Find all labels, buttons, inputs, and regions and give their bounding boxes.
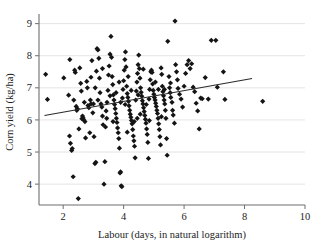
x-tick-label: 6 (181, 211, 186, 222)
y-tick-label: 7 (27, 82, 32, 93)
y-tick-label: 6 (27, 115, 32, 126)
y-tick-label: 4 (27, 179, 33, 190)
chart-figure: 246810 456789 Labour (days, in natural l… (0, 0, 323, 250)
y-tick-label: 8 (27, 50, 32, 61)
y-tick-label: 5 (27, 147, 32, 158)
x-tick-label: 8 (242, 211, 247, 222)
scatter-plot: 246810 456789 Labour (days, in natural l… (0, 0, 323, 250)
y-axis-title: Corn yield (kg/ha) (4, 73, 16, 151)
y-tick-label: 9 (27, 18, 32, 29)
x-tick-label: 2 (61, 211, 66, 222)
x-axis-title: Labour (days, in natural logarithm) (98, 229, 246, 241)
x-tick-label: 10 (300, 211, 311, 222)
plot-background (0, 0, 323, 250)
x-tick-label: 4 (121, 211, 127, 222)
